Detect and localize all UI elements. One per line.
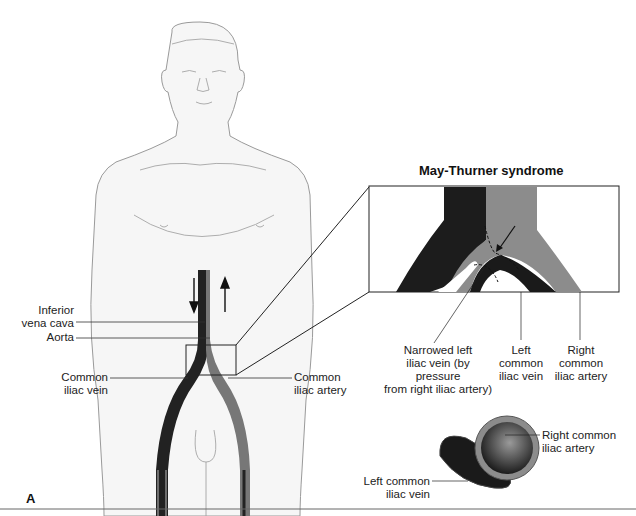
label-cs-right-common-iliac-artery: Right common iliac artery bbox=[542, 429, 616, 455]
label-cs-left-common-iliac-vein: Left common iliac vein bbox=[350, 475, 430, 501]
label-right-common-iliac-artery: Right common iliac artery bbox=[550, 344, 612, 383]
label-narrowed-left-iliac-vein: Narrowed left iliac vein (by pressure fr… bbox=[383, 344, 493, 396]
human-body-outline bbox=[91, 22, 313, 516]
diagram-canvas bbox=[0, 0, 636, 516]
label-inferior-vena-cava: Inferior vena cava bbox=[0, 304, 74, 330]
label-common-iliac-vein: Common iliac vein bbox=[0, 371, 108, 397]
inset-diagram bbox=[369, 186, 619, 343]
label-left-common-iliac-vein: Left common iliac vein bbox=[496, 344, 546, 383]
inset-title: May-Thurner syndrome bbox=[419, 163, 563, 178]
panel-label: A bbox=[26, 491, 35, 506]
label-aorta: Aorta bbox=[0, 331, 74, 344]
cross-section-diagram bbox=[432, 416, 540, 488]
label-common-iliac-artery: Common iliac artery bbox=[294, 371, 346, 397]
